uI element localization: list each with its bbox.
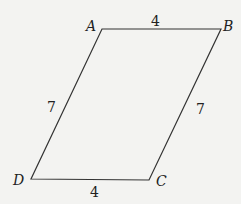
side-label-bc: 7 — [196, 101, 205, 117]
parallelogram-shape — [31, 29, 221, 180]
vertex-label-d: D — [12, 172, 24, 188]
side-label-cd: 4 — [90, 184, 99, 200]
vertex-label-c: C — [156, 173, 167, 189]
vertex-label-b: B — [222, 18, 233, 34]
vertex-label-a: A — [84, 18, 96, 34]
parallelogram-diagram: A B C D 4 7 4 7 — [0, 0, 241, 204]
side-label-da: 7 — [47, 99, 56, 115]
side-label-ab: 4 — [151, 13, 160, 29]
